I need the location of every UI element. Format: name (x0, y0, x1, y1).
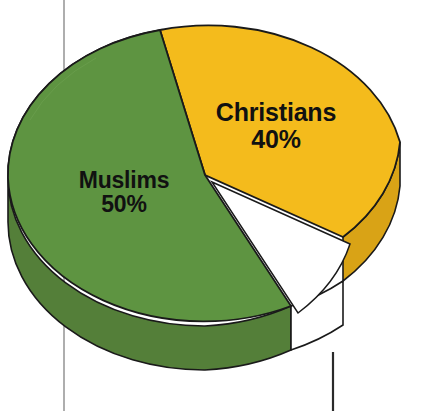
pie-chart-canvas (0, 0, 428, 411)
pie-chart-figure: Christians 40% Muslims 50% (0, 0, 428, 411)
